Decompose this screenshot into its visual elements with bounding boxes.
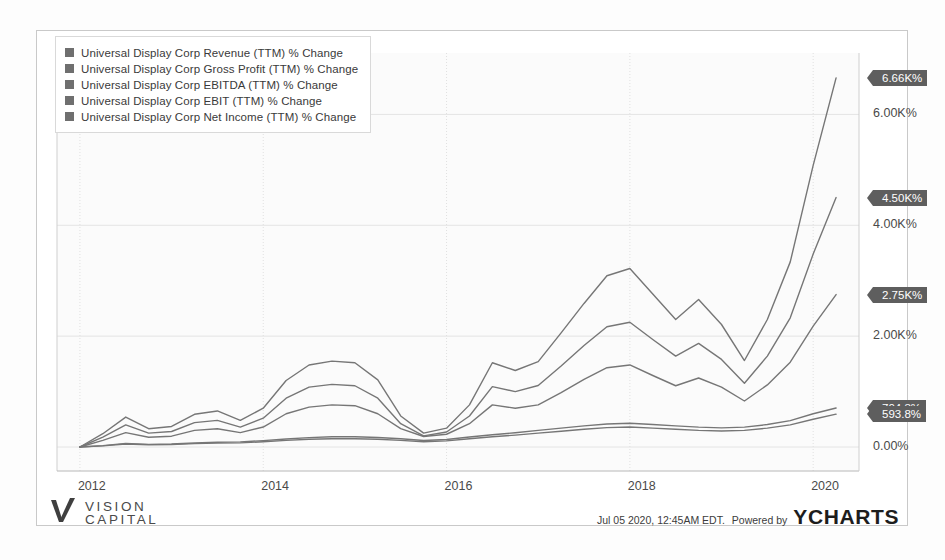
- y-axis-tick-2000: 2.00K%: [873, 328, 917, 342]
- chart-footer: Jul 05 2020, 12:45AM EDT. Powered by YCH…: [597, 505, 899, 529]
- legend-swatch-revenue: [65, 48, 74, 57]
- vision-capital-logo: VISION CAPITAL: [50, 497, 158, 529]
- legend-item-net-income[interactable]: Universal Display Corp Net Income (TTM) …: [65, 109, 358, 124]
- value-flag-revenue: 593.8%: [873, 406, 926, 422]
- y-axis-tick-0: 0.00%: [873, 439, 908, 453]
- timestamp-label: Jul 05 2020, 12:45AM EDT.: [597, 514, 725, 526]
- legend-swatch-ebitda: [65, 80, 74, 89]
- value-flag-ebitda: 2.75K%: [873, 287, 927, 303]
- legend-label-net-income: Universal Display Corp Net Income (TTM) …: [81, 111, 356, 123]
- ycharts-logo: YCHARTS: [793, 505, 899, 529]
- legend-swatch-net-income: [65, 112, 74, 121]
- value-flag-net-income: 6.66K%: [873, 70, 927, 86]
- vision-checkmark-icon: [50, 497, 76, 529]
- value-flag-ebit: 4.50K%: [873, 190, 927, 206]
- legend-swatch-gross-profit: [65, 64, 74, 73]
- legend-item-revenue[interactable]: Universal Display Corp Revenue (TTM) % C…: [65, 45, 358, 60]
- legend-item-ebit[interactable]: Universal Display Corp EBIT (TTM) % Chan…: [65, 93, 358, 108]
- legend-item-ebitda[interactable]: Universal Display Corp EBITDA (TTM) % Ch…: [65, 77, 358, 92]
- legend-label-gross-profit: Universal Display Corp Gross Profit (TTM…: [81, 63, 358, 75]
- legend-item-gross-profit[interactable]: Universal Display Corp Gross Profit (TTM…: [65, 61, 358, 76]
- y-axis-tick-4000: 4.00K%: [873, 217, 917, 231]
- chart-legend: Universal Display Corp Revenue (TTM) % C…: [55, 36, 371, 133]
- x-axis-tick-2018: 2018: [628, 479, 656, 493]
- vision-capital-wordmark: VISION CAPITAL: [85, 500, 158, 526]
- legend-swatch-ebit: [65, 96, 74, 105]
- x-axis-tick-2020: 2020: [811, 479, 839, 493]
- powered-by-label: Powered by: [732, 514, 787, 526]
- legend-label-ebitda: Universal Display Corp EBITDA (TTM) % Ch…: [81, 79, 338, 91]
- x-axis-tick-2012: 2012: [78, 479, 106, 493]
- y-axis-tick-6000: 6.00K%: [873, 106, 917, 120]
- brand-line-2: CAPITAL: [85, 513, 158, 526]
- legend-label-ebit: Universal Display Corp EBIT (TTM) % Chan…: [81, 95, 322, 107]
- legend-label-revenue: Universal Display Corp Revenue (TTM) % C…: [81, 47, 343, 59]
- x-axis-tick-2014: 2014: [261, 479, 289, 493]
- x-axis-tick-2016: 2016: [445, 479, 473, 493]
